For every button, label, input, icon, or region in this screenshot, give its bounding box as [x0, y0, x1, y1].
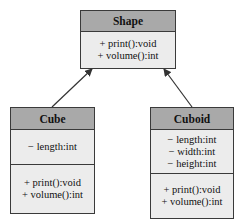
class-cube-name: Cube: [11, 108, 94, 130]
attribute: − width:int: [169, 146, 215, 158]
method: + print():void: [100, 38, 157, 50]
class-cuboid-name: Cuboid: [151, 108, 233, 130]
method: + volume():int: [22, 189, 83, 201]
attribute: − height:int: [168, 158, 217, 170]
class-shape[interactable]: Shape + print():void + volume():int: [80, 10, 176, 69]
class-cuboid[interactable]: Cuboid − length:int − width:int − height…: [150, 107, 234, 219]
arrow-cuboid-to-shape: [164, 69, 192, 107]
method: + volume():int: [161, 196, 222, 208]
method: + print():void: [164, 184, 221, 196]
class-cuboid-attributes: − length:int − width:int − height:int: [151, 130, 233, 173]
class-shape-methods: + print():void + volume():int: [81, 32, 175, 68]
class-cube-attributes: − length:int: [11, 130, 94, 164]
attribute: − length:int: [28, 141, 77, 153]
arrow-cube-to-shape: [52, 69, 92, 107]
class-cube[interactable]: Cube − length:int + print():void + volum…: [10, 107, 95, 214]
method: + print():void: [24, 177, 81, 189]
attribute: − length:int: [168, 134, 217, 146]
class-shape-name: Shape: [81, 11, 175, 32]
class-cube-methods: + print():void + volume():int: [11, 164, 94, 213]
method: + volume():int: [97, 50, 158, 62]
class-cuboid-methods: + print():void + volume():int: [151, 173, 233, 218]
